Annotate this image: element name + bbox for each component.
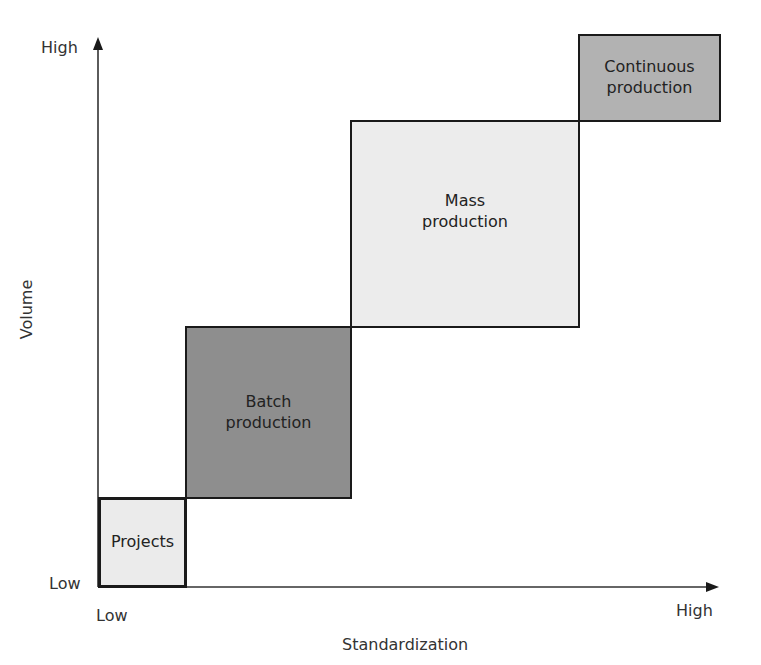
x-axis-low-label: Low [96, 606, 128, 625]
batch-label-line1: Batch [226, 392, 312, 413]
projects-box: Projects [98, 497, 187, 588]
y-axis-arrow-icon [93, 37, 103, 50]
x-axis-title: Standardization [342, 635, 468, 654]
y-axis-low-label: Low [49, 574, 81, 593]
mass-label-line2: production [422, 212, 508, 233]
batch-production-box: Batch production [185, 326, 352, 499]
batch-label-line2: production [226, 413, 312, 434]
x-axis-arrow-icon [706, 582, 719, 592]
x-axis-high-label: High [676, 601, 713, 620]
continuous-label-line2: production [604, 78, 694, 99]
continuous-production-box: Continuous production [578, 34, 721, 122]
y-axis-title: Volume [17, 280, 36, 340]
y-axis-high-label: High [41, 38, 78, 57]
projects-label: Projects [111, 532, 174, 553]
mass-production-box: Mass production [350, 120, 580, 328]
continuous-label-line1: Continuous [604, 57, 694, 78]
mass-label-line1: Mass [422, 191, 508, 212]
